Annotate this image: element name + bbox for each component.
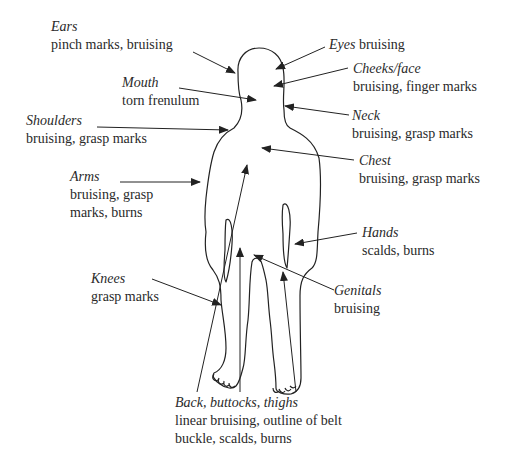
injuries-ears: pinch marks, bruising (51, 36, 173, 54)
injuries-genitals: bruising (334, 300, 381, 318)
cheeks-arrow (274, 68, 348, 86)
label-ears: Ears pinch marks, bruising (51, 18, 173, 54)
neck-arrow (285, 106, 349, 115)
region-mouth: Mouth (122, 74, 199, 92)
ears-arrow (193, 52, 235, 73)
region-hands: Hands (362, 224, 434, 242)
injuries-chest: bruising, grasp marks (359, 170, 480, 188)
label-genitals: Genitals bruising (334, 282, 381, 318)
injuries-arms-line1: bruising, grasp (70, 186, 153, 204)
region-neck: Neck (352, 107, 473, 125)
label-mouth: Mouth torn frenulum (122, 74, 199, 110)
injuries-eyes: bruising (359, 37, 405, 52)
region-chest: Chest (359, 152, 480, 170)
injuries-arms-line2: marks, burns (70, 204, 153, 222)
injuries-back-line2: buckle, scalds, burns (175, 430, 342, 448)
label-hands: Hands scalds, burns (362, 224, 434, 260)
hands-arrow (295, 233, 357, 244)
region-shoulders: Shoulders (26, 112, 147, 130)
knees-arrow (152, 279, 221, 305)
region-back: Back, buttocks, thighs (175, 394, 342, 412)
label-chest: Chest bruising, grasp marks (359, 152, 480, 188)
injuries-hands: scalds, burns (362, 242, 434, 260)
injuries-knees: grasp marks (91, 288, 159, 306)
chest-arrow (262, 148, 354, 160)
injuries-shoulders: bruising, grasp marks (26, 130, 147, 148)
genitals-arrow (254, 255, 334, 290)
label-cheeks: Cheeks/face bruising, finger marks (353, 60, 477, 96)
label-knees: Knees grasp marks (91, 270, 159, 306)
back-arrow-right (283, 272, 296, 392)
region-cheeks: Cheeks/face (353, 60, 477, 78)
label-shoulders: Shoulders bruising, grasp marks (26, 112, 147, 148)
label-arms: Arms bruising, grasp marks, burns (70, 168, 153, 222)
region-arms: Arms (70, 168, 153, 186)
label-neck: Neck bruising, grasp marks (352, 107, 473, 143)
region-ears: Ears (51, 18, 173, 36)
label-eyes: Eyes bruising (329, 36, 405, 54)
eyes-arrow (276, 47, 325, 69)
injuries-cheeks: bruising, finger marks (353, 78, 477, 96)
region-eyes: Eyes (329, 37, 355, 52)
region-genitals: Genitals (334, 282, 381, 300)
injuries-neck: bruising, grasp marks (352, 125, 473, 143)
injuries-back-line1: linear bruising, outline of belt (175, 412, 342, 430)
label-back: Back, buttocks, thighs linear bruising, … (175, 394, 342, 448)
region-knees: Knees (91, 270, 159, 288)
injuries-mouth: torn frenulum (122, 92, 199, 110)
body-outline (205, 48, 321, 394)
